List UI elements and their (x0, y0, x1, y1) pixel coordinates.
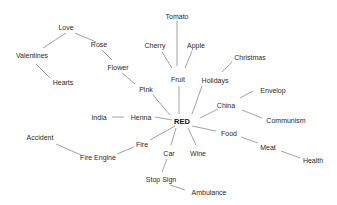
node-holidays: Holidays (202, 77, 229, 84)
connector-line (200, 109, 218, 118)
node-meat: Meat (260, 144, 276, 151)
connector-line (192, 86, 202, 114)
node-love: Love (58, 24, 73, 31)
node-china: China (217, 102, 235, 109)
connector-line (222, 62, 232, 72)
node-india: India (91, 114, 106, 121)
node-valentines: Valentines (16, 52, 48, 59)
node-tomato: Tomato (166, 13, 189, 20)
node-communism: Communism (266, 117, 305, 124)
node-fruit: Fruit (171, 76, 185, 83)
connector-line (170, 185, 185, 190)
node-fireengine: Fire Engine (80, 154, 116, 161)
connector-line (242, 110, 262, 118)
connector-line (240, 91, 253, 98)
node-car: Car (163, 150, 174, 157)
node-envelop: Envelop (260, 87, 285, 94)
connector-line (155, 117, 172, 120)
connector-line (122, 73, 135, 84)
connector-line (162, 159, 167, 172)
node-christmas: Christmas (234, 54, 266, 61)
connector-line (43, 33, 66, 48)
connector-line (241, 137, 258, 143)
node-hearts: Hearts (53, 79, 74, 86)
node-wine: Wine (190, 150, 206, 157)
connector-line (117, 147, 134, 154)
node-stopsign: Stop Sign (146, 176, 176, 183)
node-cherry: Cherry (144, 42, 165, 49)
connector-line (56, 144, 81, 155)
center-node-red: RED (174, 118, 190, 126)
node-ambulance: Ambulance (191, 189, 226, 196)
node-food: Food (221, 130, 237, 137)
node-health: Health (303, 157, 323, 164)
connector-line (153, 95, 170, 115)
connector-line (102, 50, 112, 60)
node-accident: Accident (27, 134, 54, 141)
node-flower: Flower (107, 64, 128, 71)
connector-line (188, 128, 196, 145)
connector-line (185, 51, 192, 68)
connector-lines (0, 0, 337, 205)
node-rose: Rose (91, 41, 107, 48)
connector-line (281, 151, 300, 158)
node-henna: Henna (131, 114, 152, 121)
node-pink: Pink (139, 86, 153, 93)
connector-line (171, 128, 176, 145)
connector-line (162, 52, 172, 68)
node-fire: Fire (136, 141, 148, 148)
connector-line (192, 126, 216, 131)
connector-line (36, 64, 50, 78)
node-apple: Apple (187, 42, 205, 49)
connector-line (150, 126, 175, 140)
